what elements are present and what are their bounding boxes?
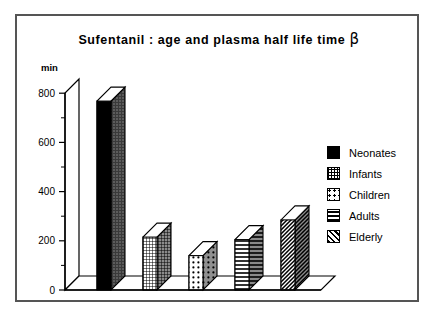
ytick-800: 800 — [38, 88, 55, 99]
y-axis-tick-labels: 0 200 400 600 800 min — [38, 62, 58, 296]
legend-label-infants: Infants — [349, 168, 382, 180]
bar-elderly[interactable] — [281, 206, 309, 290]
legend-item-infants[interactable]: Infants — [327, 163, 425, 184]
y-axis-ticks — [59, 93, 65, 290]
bar-neonates[interactable] — [97, 87, 125, 290]
legend-label-elderly: Elderly — [349, 231, 383, 243]
legend-label-children: Children — [349, 189, 390, 201]
y-axis-unit-label: min — [41, 62, 58, 73]
chart-legend: Neonates Infants Children Adults Elderly — [327, 142, 425, 247]
legend-item-adults[interactable]: Adults — [327, 205, 425, 226]
legend-swatch-neonates — [327, 146, 340, 159]
y-axis-wall — [65, 79, 79, 290]
legend-swatch-elderly — [327, 230, 340, 243]
legend-label-adults: Adults — [349, 210, 380, 222]
legend-swatch-children — [327, 188, 340, 201]
legend-item-neonates[interactable]: Neonates — [327, 142, 425, 163]
legend-item-elderly[interactable]: Elderly — [327, 226, 425, 247]
ytick-0: 0 — [49, 285, 55, 296]
legend-swatch-infants — [327, 167, 340, 180]
legend-swatch-adults — [327, 209, 340, 222]
legend-item-children[interactable]: Children — [327, 184, 425, 205]
ytick-200: 200 — [38, 235, 55, 246]
legend-label-neonates: Neonates — [349, 147, 396, 159]
ytick-400: 400 — [38, 186, 55, 197]
ytick-600: 600 — [38, 137, 55, 148]
chart-frame: Sufentanil : age and plasma half life ti… — [15, 14, 419, 302]
bar-adults[interactable] — [235, 226, 263, 290]
bar-infants[interactable] — [143, 223, 171, 290]
